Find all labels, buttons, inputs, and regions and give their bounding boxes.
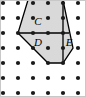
- lattice-dot: [16, 31, 20, 35]
- lattice-dot: [31, 91, 35, 95]
- shaded-pentagon-group: [18, 0, 73, 63]
- lattice-dot: [76, 61, 80, 65]
- lattice-dot: [1, 1, 5, 5]
- lattice-dot: [46, 16, 50, 20]
- lattice-figure: CDE: [0, 0, 86, 97]
- lattice-dot: [1, 76, 5, 80]
- lattice-dot: [31, 76, 35, 80]
- region-label-d: D: [34, 37, 42, 48]
- lattice-dot: [76, 31, 80, 35]
- figure-canvas: [0, 0, 86, 97]
- lattice-dot: [76, 76, 80, 80]
- lattice-dot: [16, 46, 20, 50]
- lattice-dot: [76, 91, 80, 95]
- lattice-dot: [46, 76, 50, 80]
- lattice-dot: [1, 91, 5, 95]
- region-label-e: E: [66, 37, 73, 48]
- lattice-dot: [46, 46, 50, 50]
- lattice-dot: [1, 46, 5, 50]
- lattice-dot: [16, 76, 20, 80]
- lattice-dot: [16, 91, 20, 95]
- lattice-dot: [1, 31, 5, 35]
- region-label-c: C: [34, 16, 41, 27]
- lattice-dot: [61, 76, 65, 80]
- lattice-dot: [61, 91, 65, 95]
- lattice-dot: [16, 1, 20, 5]
- lattice-dot: [16, 61, 20, 65]
- lattice-dot: [76, 46, 80, 50]
- lattice-dot: [31, 61, 35, 65]
- lattice-dot: [46, 91, 50, 95]
- lattice-dot: [76, 1, 80, 5]
- lattice-dot: [16, 16, 20, 20]
- lattice-dot: [61, 31, 65, 35]
- lattice-dot: [61, 16, 65, 20]
- lattice-dot: [46, 61, 50, 65]
- lattice-dot: [76, 16, 80, 20]
- shaded-pentagon: [18, 0, 73, 63]
- lattice-dot: [31, 31, 35, 35]
- lattice-dot: [46, 31, 50, 35]
- lattice-dot: [1, 61, 5, 65]
- lattice-dot: [61, 1, 65, 5]
- lattice-dot: [61, 46, 65, 50]
- lattice-dot: [31, 1, 35, 5]
- lattice-dot: [46, 1, 50, 5]
- lattice-dot: [61, 61, 65, 65]
- lattice-dot: [1, 16, 5, 20]
